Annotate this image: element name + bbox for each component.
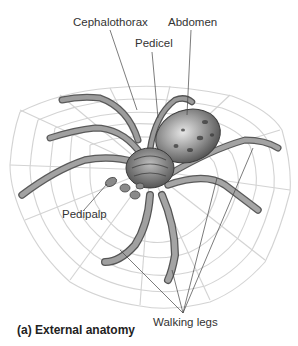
label-walking-legs: Walking legs	[153, 317, 218, 329]
spider-legs	[22, 97, 278, 280]
spider-illustration	[0, 0, 298, 346]
figure-caption: (a) External anatomy	[17, 324, 135, 336]
label-pedicel: Pedicel	[135, 38, 173, 50]
label-pedipalp: Pedipalp	[62, 209, 107, 221]
label-abdomen: Abdomen	[168, 17, 217, 29]
label-cephalothorax: Cephalothorax	[73, 17, 148, 29]
